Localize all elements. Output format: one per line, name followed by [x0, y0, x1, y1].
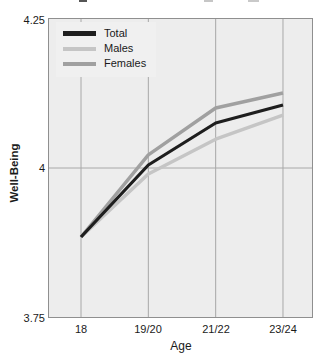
legend-label-females: Females — [104, 57, 146, 70]
x-tick-label-18: 18 — [75, 323, 87, 336]
legend: Total Males Females — [56, 22, 156, 77]
cropped-text-fragment — [204, 0, 213, 2]
legend-item-males: Males — [63, 41, 146, 56]
cropped-text-fragment — [79, 0, 87, 2]
legend-item-total: Total — [63, 26, 146, 41]
plot-area: Total Males Females — [48, 18, 313, 318]
legend-item-females: Females — [63, 56, 146, 71]
cropped-text-fragment — [248, 0, 259, 2]
legend-label-total: Total — [104, 27, 127, 40]
x-tick-label-19-20: 19/20 — [134, 323, 162, 336]
y-tick-label-4-25: 4.25 — [0, 14, 45, 27]
wellbeing-line-chart: 4.25 4 3.75 Well-Being Total Males Femal… — [0, 0, 327, 361]
y-tick-label-3-75: 3.75 — [0, 312, 45, 325]
x-axis-title: Age — [170, 339, 191, 353]
y-axis-title: Well-Being — [7, 98, 21, 248]
legend-label-males: Males — [104, 42, 133, 55]
males-line-swatch — [63, 47, 96, 51]
x-tick-label-23-24: 23/24 — [269, 323, 297, 336]
females-line-swatch — [63, 62, 96, 66]
x-tick-label-21-22: 21/22 — [202, 323, 230, 336]
total-line-swatch — [63, 31, 96, 36]
